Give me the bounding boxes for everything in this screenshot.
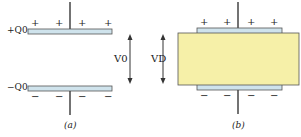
minus-sign: − — [247, 90, 255, 101]
top-charge-label: +Q0 — [7, 25, 28, 35]
top-plate — [28, 29, 112, 34]
minus-sign: − — [104, 91, 112, 102]
plus-sign: + — [78, 17, 86, 28]
minus-sign: − — [223, 90, 231, 101]
plus-sign: + — [55, 17, 63, 28]
plus-sign: + — [104, 17, 112, 28]
voltage-arrow — [128, 34, 133, 84]
bottom-plate — [28, 86, 112, 91]
caption-a: (a) — [64, 120, 76, 130]
minus-sign: − — [200, 90, 208, 101]
minus-sign: − — [78, 91, 86, 102]
plus-sign: + — [31, 17, 39, 28]
dielectric-slab — [178, 33, 299, 85]
plus-sign: + — [270, 16, 278, 27]
capacitor-diagram — [0, 0, 301, 137]
voltage-label: V0 — [114, 53, 128, 64]
minus-sign: − — [270, 90, 278, 101]
plus-sign: + — [247, 16, 255, 27]
minus-sign: − — [55, 91, 63, 102]
plus-sign: + — [200, 16, 208, 27]
minus-sign: − — [31, 91, 39, 102]
caption-b: (b) — [232, 120, 245, 130]
bottom-charge-label: −Q0 — [7, 82, 28, 92]
voltage-label: VD — [151, 53, 166, 64]
plus-sign: + — [223, 16, 231, 27]
